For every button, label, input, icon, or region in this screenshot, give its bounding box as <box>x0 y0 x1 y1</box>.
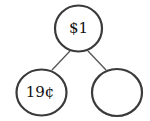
part-left-label: 19¢ <box>26 83 55 101</box>
number-bond-diagram: $1 19¢ <box>0 0 150 121</box>
connector-line-left <box>52 51 70 70</box>
part-circle-right <box>92 69 142 116</box>
whole-label: $1 <box>69 19 88 37</box>
connector-line-right <box>88 51 106 70</box>
whole-circle: $1 <box>55 6 102 52</box>
part-circle-right-shape <box>92 69 142 116</box>
part-circle-left: 19¢ <box>17 70 67 116</box>
